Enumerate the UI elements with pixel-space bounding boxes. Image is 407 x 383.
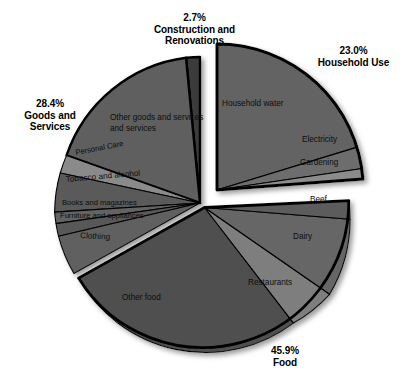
slice-label-other-goods-and-services-line2: and services (110, 124, 156, 133)
slice-label-dairy: Dairy (293, 232, 313, 241)
slice-label-other-food: Other food (122, 293, 161, 302)
slice-label-gardening: Gardening (300, 158, 339, 167)
slice-label-electricity: Electricity (302, 135, 338, 144)
callout-name-goods-line2: Services (4, 121, 96, 133)
callout-household-use: 23.0% Household Use (300, 45, 407, 68)
callout-food: 45.9% Food (240, 345, 330, 368)
callout-name-construction-line1: Construction and (127, 24, 262, 36)
callout-percent-household: 23.0% (300, 45, 407, 57)
slice-label-clothing: Clothing (80, 231, 111, 242)
slice-label-household-water: Household water (222, 99, 284, 108)
callout-percent-food: 45.9% (240, 345, 330, 357)
callout-goods-and-services: 28.4% Goods and Services (4, 98, 96, 133)
callout-name-household: Household Use (300, 57, 407, 69)
slice-label-furniture-and-appliances: Furniture and appliances (60, 211, 144, 220)
callout-percent-goods: 28.4% (4, 98, 96, 110)
callout-name-construction-line2: Renovations (127, 35, 262, 47)
callout-percent-construction: 2.7% (127, 12, 262, 24)
pie-chart-figure: Household water Electricity Gardening Be… (0, 0, 407, 383)
callout-name-food: Food (240, 357, 330, 369)
slice-label-other-goods-and-services: Other goods and services (110, 113, 203, 122)
slice-label-restaurants: Restaurants (248, 278, 292, 287)
callout-name-goods-line1: Goods and (4, 110, 96, 122)
slice-label-books-and-magazines: Books and magazines (62, 198, 137, 207)
slice-label-beef: Beef (310, 195, 328, 204)
callout-construction-and-renovations: 2.7% Construction and Renovations (127, 12, 262, 47)
